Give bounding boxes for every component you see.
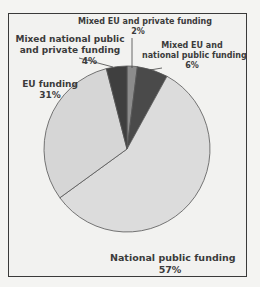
label-text: Mixed national public xyxy=(15,34,125,45)
label-eu-national: Mixed EU and national public funding 6% xyxy=(142,41,242,71)
label-national: National public funding 57% xyxy=(110,252,230,276)
label-text: national public funding xyxy=(142,51,242,61)
label-text: National public funding xyxy=(110,252,230,264)
label-text: and private funding xyxy=(15,45,125,56)
label-text: EU funding xyxy=(20,79,80,90)
label-pct: 31% xyxy=(20,90,80,101)
label-pct: 57% xyxy=(110,264,230,276)
label-text: Mixed EU and private funding xyxy=(78,17,198,27)
label-pct: 4% xyxy=(15,56,125,67)
label-pct: 6% xyxy=(142,61,242,71)
label-text: Mixed EU and xyxy=(142,41,242,51)
label-eu: EU funding 31% xyxy=(20,79,80,101)
label-national-private: Mixed national public and private fundin… xyxy=(15,34,125,67)
